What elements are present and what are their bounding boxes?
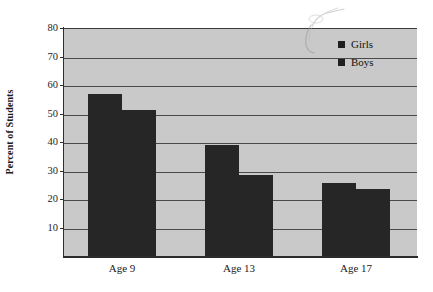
legend-swatch-icon-girls: [338, 41, 345, 48]
y-tick-label-40: 40: [34, 137, 58, 147]
y-tick-label-80: 80: [34, 23, 58, 33]
legend-item-boys: Boys: [338, 55, 408, 70]
y-tick-mark-30: [60, 171, 64, 172]
y-tick-label-10: 10: [34, 223, 58, 233]
y-tick-mark-60: [60, 85, 64, 86]
legend-item-girls: Girls: [338, 37, 408, 52]
bar-age-9-boys: [122, 110, 156, 256]
y-tick-label-60: 60: [34, 80, 58, 90]
y-tick-label-70: 70: [34, 52, 58, 62]
x-tick-label-age-9: Age 9: [82, 262, 162, 274]
y-tick-label-50: 50: [34, 109, 58, 119]
y-tick-mark-40: [60, 142, 64, 143]
y-tick-mark-80: [60, 28, 64, 29]
y-tick-label-30: 30: [34, 166, 58, 176]
y-tick-mark-70: [60, 57, 64, 58]
bar-age-13-girls: [205, 145, 239, 256]
bar-age-17-boys: [356, 189, 390, 256]
legend-label-girls: Girls: [351, 39, 373, 50]
legend-label-boys: Boys: [351, 57, 374, 68]
bar-age-17-girls: [322, 183, 356, 256]
legend-swatch-icon-boys: [338, 59, 345, 66]
x-axis-line: [63, 256, 418, 258]
y-tick-label-20: 20: [34, 194, 58, 204]
bar-age-13-boys: [239, 175, 273, 256]
y-axis-tick-labels: 1020304050607080: [32, 0, 58, 292]
x-tick-label-age-17: Age 17: [316, 262, 396, 274]
y-tick-mark-20: [60, 199, 64, 200]
y-tick-mark-50: [60, 114, 64, 115]
y-axis-title: Percent of Students: [4, 62, 18, 202]
x-tick-label-age-13: Age 13: [199, 262, 279, 274]
bar-age-9-girls: [88, 94, 122, 256]
chart-legend: GirlsBoys: [338, 37, 408, 73]
bar-chart-figure: Percent of Students 1020304050607080 Age…: [0, 0, 433, 292]
gridline-60: [64, 86, 417, 87]
y-tick-mark-10: [60, 228, 64, 229]
